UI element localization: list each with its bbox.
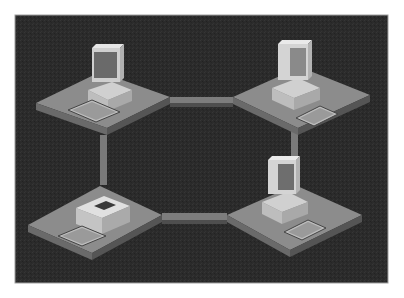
link-bottom — [162, 213, 227, 224]
ring-topology-illustration — [0, 0, 404, 298]
link-top — [170, 97, 233, 107]
link-left — [100, 135, 107, 185]
